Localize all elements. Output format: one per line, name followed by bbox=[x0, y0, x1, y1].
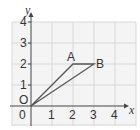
y-tick-3: 3 bbox=[20, 36, 27, 50]
point-a-label: A bbox=[67, 50, 75, 64]
x-tick-3: 3 bbox=[90, 108, 97, 122]
point-b-label: B bbox=[96, 57, 104, 71]
coordinate-grid-chart: y x 4 3 2 1 0 1 2 3 4 O A B bbox=[0, 0, 140, 130]
y-tick-2: 2 bbox=[20, 57, 27, 71]
x-tick-2: 2 bbox=[69, 108, 76, 122]
y-tick-1: 1 bbox=[20, 78, 27, 92]
x-tick-4: 4 bbox=[111, 108, 118, 122]
x-axis-label: x bbox=[128, 103, 135, 117]
origin-label: O bbox=[19, 93, 28, 107]
x-tick-0: 0 bbox=[19, 108, 26, 122]
x-tick-1: 1 bbox=[48, 108, 55, 122]
y-tick-4: 4 bbox=[20, 15, 27, 29]
